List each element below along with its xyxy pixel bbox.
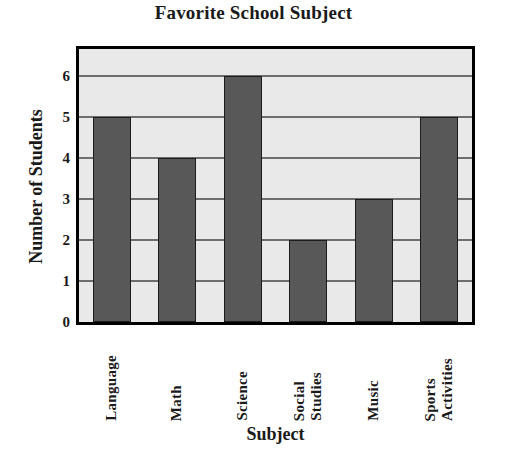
x-tick-label-line: Language <box>103 355 121 421</box>
bar-science[interactable] <box>224 76 262 322</box>
x-tick-label-music: Music <box>341 325 407 421</box>
x-tick-label-math: Math <box>145 325 211 421</box>
x-axis-tick-labels: LanguageMathScienceSocialStudiesMusicSpo… <box>76 325 475 421</box>
bar-sports-activities[interactable] <box>420 117 458 322</box>
plot-inner <box>79 49 472 322</box>
x-tick-label-sports-activities: SportsActivities <box>407 325 473 421</box>
bar-music[interactable] <box>355 199 393 322</box>
x-tick-label-line: Math <box>168 385 186 421</box>
x-tick-label-line: Science <box>234 371 252 421</box>
x-tick-label-line: Social <box>291 381 309 421</box>
x-tick-label-social-studies: SocialStudies <box>276 325 342 421</box>
gridline <box>79 157 472 159</box>
gridline <box>79 75 472 77</box>
y-tick-label: 4 <box>50 151 70 166</box>
x-axis-title: Subject <box>76 424 475 445</box>
x-tick-label-line: Activities <box>439 358 457 421</box>
y-tick-label: 5 <box>50 110 70 125</box>
y-tick-label: 3 <box>50 192 70 207</box>
x-tick-label-line: Music <box>365 380 383 421</box>
y-tick-label: 0 <box>50 315 70 330</box>
chart-title: Favorite School Subject <box>0 2 507 24</box>
plot-area <box>76 46 475 325</box>
gridline <box>79 239 472 241</box>
gridline <box>79 280 472 282</box>
gridline <box>79 198 472 200</box>
y-tick-label: 1 <box>50 274 70 289</box>
x-tick-label-line: Studies <box>308 372 326 421</box>
bar-math[interactable] <box>158 158 196 322</box>
y-axis-tick-labels: 0123456 <box>44 46 70 325</box>
gridline <box>79 116 472 118</box>
y-tick-label: 2 <box>50 233 70 248</box>
x-tick-label-line: Sports <box>422 378 440 421</box>
y-tick-label: 6 <box>50 69 70 84</box>
bar-social-studies[interactable] <box>289 240 327 322</box>
x-tick-label-language: Language <box>79 325 145 421</box>
bar-language[interactable] <box>93 117 131 322</box>
x-tick-label-science: Science <box>210 325 276 421</box>
